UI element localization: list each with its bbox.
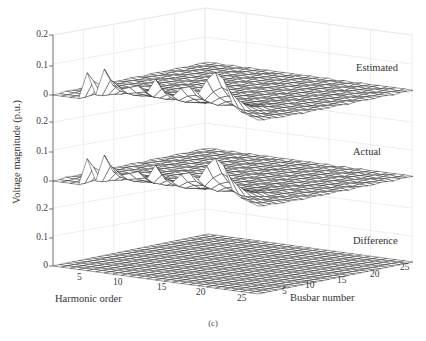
harmonic-tick-label: 25 [237, 294, 247, 304]
x-axis-title: Harmonic order [55, 294, 122, 305]
z-tick-label: 0.2 [18, 204, 48, 214]
chart-canvas [0, 0, 426, 341]
panel-label-actual: Actual [353, 147, 381, 158]
z-tick-label: 0.1 [18, 61, 48, 71]
harmonic-tick-label: 15 [157, 283, 167, 293]
panel-label-estimated: Estimated [356, 63, 398, 74]
back-wall-grid [53, 8, 412, 266]
panel-label-difference: Difference [353, 236, 398, 247]
busbar-tick-label: 20 [370, 270, 380, 280]
z-tick-label: 0 [18, 90, 48, 100]
busbar-tick-label: 5 [282, 287, 287, 297]
busbar-tick-label: 10 [305, 281, 315, 291]
harmonic-tick-label: 5 [77, 273, 82, 283]
z-axis [49, 35, 53, 266]
harmonic-tick-label: 10 [113, 278, 123, 288]
busbar-tick-label: 15 [337, 276, 347, 286]
z-tick-label: 0.1 [18, 233, 48, 243]
busbar-tick-label: 25 [400, 263, 410, 273]
z-tick-label: 0.2 [18, 30, 48, 40]
figure-caption: (c) [208, 318, 217, 328]
z-tick-label: 0.1 [18, 147, 48, 157]
z-tick-label: 0 [18, 176, 48, 186]
z-tick-label: 0.2 [18, 117, 48, 127]
harmonic-tick-label: 20 [196, 288, 206, 298]
y-axis-title: Busbar number [290, 293, 354, 304]
z-tick-label: 0 [18, 261, 48, 271]
